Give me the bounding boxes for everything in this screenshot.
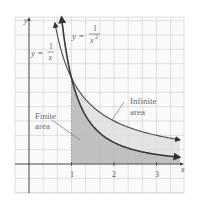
svg-text:area: area bbox=[130, 107, 145, 117]
svg-text:x: x bbox=[48, 53, 53, 62]
improper-integral-figure: y x 1 2 3 y = 1 x y = 1 x 2 Finite area … bbox=[0, 0, 199, 204]
x-tick-label-2: 2 bbox=[112, 170, 116, 179]
x-tick-label-3: 3 bbox=[155, 170, 159, 179]
svg-text:1: 1 bbox=[49, 42, 53, 51]
svg-text:2: 2 bbox=[95, 34, 98, 40]
y-axis-label: y bbox=[23, 16, 28, 25]
svg-text:y =: y = bbox=[30, 48, 43, 58]
svg-text:Infinite: Infinite bbox=[130, 96, 157, 106]
svg-text:1: 1 bbox=[93, 24, 97, 33]
x-tick-label-1: 1 bbox=[70, 170, 74, 179]
plot-area: y x 1 2 3 y = 1 x y = 1 x 2 Finite area … bbox=[0, 0, 199, 204]
x-axis-label: x bbox=[180, 165, 185, 174]
svg-text:Finite: Finite bbox=[35, 111, 56, 121]
grid-lines bbox=[15, 17, 184, 193]
svg-text:area: area bbox=[35, 121, 50, 131]
svg-text:x: x bbox=[89, 36, 94, 45]
svg-text:y =: y = bbox=[71, 31, 84, 41]
